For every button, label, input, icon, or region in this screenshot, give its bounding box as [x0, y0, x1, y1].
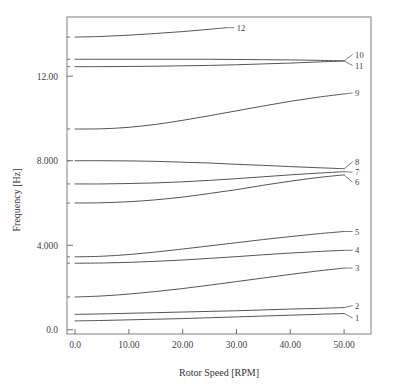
curve-8 [75, 161, 344, 169]
x-tick-label: 0.0 [69, 340, 81, 350]
curve-label-11: 11 [355, 61, 363, 71]
curve-label-12: 12 [237, 23, 246, 33]
y-tick-label: 0.0 [46, 325, 58, 335]
curve-label-4: 4 [355, 245, 360, 255]
y-tick-label: 8.000 [37, 156, 59, 166]
curve-10 [75, 59, 344, 61]
curve-label-7: 7 [355, 167, 360, 177]
curve-1 [75, 314, 344, 321]
curve-label-1: 1 [355, 313, 359, 323]
campbell-diagram: 0.010.0020.0030.0040.0050.000.04.0008.00… [0, 0, 393, 384]
x-axis-title: Rotor Speed [RPM] [179, 367, 259, 378]
leader-6 [344, 175, 353, 183]
x-tick-label: 10.00 [118, 340, 140, 350]
curve-label-9: 9 [355, 88, 359, 98]
curve-6 [75, 175, 344, 203]
x-tick-label: 20.00 [172, 340, 194, 350]
curve-3 [75, 268, 344, 297]
curve-2 [75, 308, 344, 315]
leader-8 [344, 162, 353, 169]
x-tick-label: 30.00 [226, 340, 248, 350]
curve-label-10: 10 [355, 50, 364, 60]
curve-label-8: 8 [355, 157, 359, 167]
curve-7 [75, 172, 344, 184]
axis-ticks [67, 37, 344, 334]
x-tick-label: 50.00 [333, 340, 355, 350]
curve-label-6: 6 [355, 177, 360, 187]
leader-11 [344, 61, 353, 66]
leader-2 [344, 306, 353, 308]
curve-labels: 123456789101112 [237, 23, 364, 323]
plot-frame [67, 17, 371, 334]
x-tick-label: 40.00 [280, 340, 302, 350]
leader-1 [344, 314, 353, 319]
y-axis-title: Frequency [Hz] [11, 168, 22, 231]
leader-10 [344, 54, 353, 61]
curve-9 [75, 94, 344, 129]
curve-label-2: 2 [355, 301, 359, 311]
curve-12 [75, 28, 226, 37]
curve-label-5: 5 [355, 227, 359, 237]
curve-label-3: 3 [355, 263, 359, 273]
plot-canvas: 0.010.0020.0030.0040.0050.000.04.0008.00… [0, 0, 393, 384]
y-tick-label: 12.00 [37, 72, 59, 82]
leader-7 [344, 172, 353, 173]
curve-lines [75, 28, 344, 321]
curve-5 [75, 232, 344, 257]
leader-9 [344, 93, 353, 94]
curve-11 [75, 61, 344, 67]
plot-border [67, 17, 371, 334]
y-tick-label: 4.000 [37, 241, 59, 251]
curve-4 [75, 250, 344, 263]
